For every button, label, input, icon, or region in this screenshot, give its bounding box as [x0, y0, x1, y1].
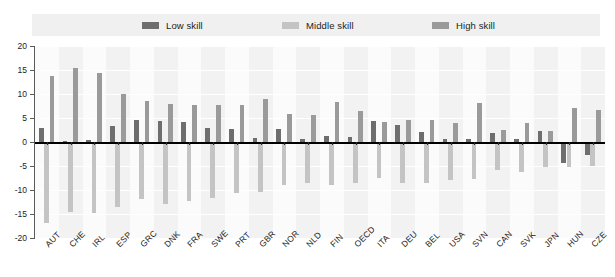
- x-axis-tick: [474, 142, 475, 145]
- gridline: [35, 214, 605, 215]
- bar: [134, 120, 139, 142]
- bar: [258, 142, 263, 192]
- x-axis-tick: [94, 142, 95, 145]
- bar: [44, 142, 49, 223]
- y-axis-tick-label: 15: [1, 66, 27, 75]
- bar: [406, 120, 411, 142]
- y-axis-tick: [30, 214, 35, 215]
- x-axis-tick: [284, 142, 285, 145]
- bar: [234, 142, 239, 193]
- bar: [353, 142, 358, 183]
- bar: [92, 142, 97, 213]
- bar: [419, 132, 424, 142]
- bar: [205, 128, 210, 142]
- legend-item-middle-skill: Middle skill: [282, 20, 354, 31]
- bar: [97, 73, 102, 142]
- bar: [216, 105, 221, 142]
- legend-item-low-skill: Low skill: [142, 20, 203, 31]
- bar: [371, 121, 376, 142]
- y-axis-tick-label: 20: [1, 42, 27, 51]
- bar: [590, 142, 595, 166]
- bar: [240, 105, 245, 142]
- gridline: [35, 70, 605, 71]
- bar: [329, 142, 334, 185]
- bar: [377, 142, 382, 178]
- bar: [163, 142, 168, 204]
- bar: [400, 142, 405, 183]
- bar: [229, 129, 234, 142]
- bar: [263, 99, 268, 142]
- x-axis-tick: [569, 142, 570, 145]
- bar: [335, 102, 340, 142]
- gridline: [35, 190, 605, 191]
- bar: [453, 123, 458, 142]
- y-axis-tick-label: 10: [1, 90, 27, 99]
- bar: [543, 142, 548, 167]
- y-axis-tick: [30, 94, 35, 95]
- bar: [39, 128, 44, 142]
- bar: [110, 126, 115, 142]
- bar: [525, 123, 530, 142]
- x-axis-tick: [356, 142, 357, 145]
- bar: [548, 131, 553, 142]
- x-axis-tick: [403, 142, 404, 145]
- legend-item-high-skill: High skill: [432, 20, 495, 31]
- bar: [448, 142, 453, 180]
- bar: [490, 133, 495, 142]
- bar: [311, 115, 316, 142]
- bar: [519, 142, 524, 172]
- x-axis-tick: [427, 142, 428, 145]
- grouped-bar-chart: Low skill Middle skill High skill 201510…: [0, 0, 615, 277]
- y-axis-tick: [30, 118, 35, 119]
- bar: [567, 142, 572, 167]
- y-axis-tick: [30, 46, 35, 47]
- bar: [73, 68, 78, 142]
- x-axis-tick: [189, 142, 190, 145]
- bar: [139, 142, 144, 199]
- bar: [382, 122, 387, 142]
- x-axis-tick: [546, 142, 547, 145]
- x-axis-tick: [498, 142, 499, 145]
- y-axis-tick-label: -5: [1, 162, 27, 171]
- bar: [477, 103, 482, 142]
- chart-legend: Low skill Middle skill High skill: [32, 14, 600, 36]
- bar: [538, 131, 543, 142]
- x-axis-tick: [142, 142, 143, 145]
- bar: [424, 142, 429, 183]
- x-axis-tick: [213, 142, 214, 145]
- legend-swatch-high-skill: [432, 22, 449, 29]
- bar: [115, 142, 120, 207]
- legend-swatch-low-skill: [142, 22, 159, 29]
- bar: [358, 111, 363, 142]
- bar: [50, 76, 55, 142]
- legend-label-low-skill: Low skill: [166, 20, 203, 31]
- y-axis-tick-label: -15: [1, 210, 27, 219]
- y-axis-tick: [30, 70, 35, 71]
- bar: [501, 130, 506, 142]
- x-axis-tick: [166, 142, 167, 145]
- bar: [282, 142, 287, 185]
- legend-label-high-skill: High skill: [456, 20, 495, 31]
- zero-baseline: [35, 142, 605, 144]
- bar: [561, 142, 566, 163]
- x-axis-tick: [522, 142, 523, 145]
- bar: [596, 110, 601, 142]
- x-axis-tick: [332, 142, 333, 145]
- bar: [572, 108, 577, 142]
- x-axis-tick: [71, 142, 72, 145]
- bar: [158, 121, 163, 142]
- bar: [187, 142, 192, 201]
- bar: [145, 101, 150, 142]
- bar: [495, 142, 500, 170]
- gridline: [35, 46, 605, 47]
- x-axis-tick: [47, 142, 48, 145]
- bar: [192, 105, 197, 142]
- x-axis-tick: [261, 142, 262, 145]
- bar: [472, 142, 477, 179]
- x-axis-tick: [451, 142, 452, 145]
- bar: [430, 120, 435, 142]
- y-axis-tick: [30, 238, 35, 239]
- legend-swatch-middle-skill: [282, 22, 299, 29]
- bar: [121, 94, 126, 142]
- bar: [305, 142, 310, 183]
